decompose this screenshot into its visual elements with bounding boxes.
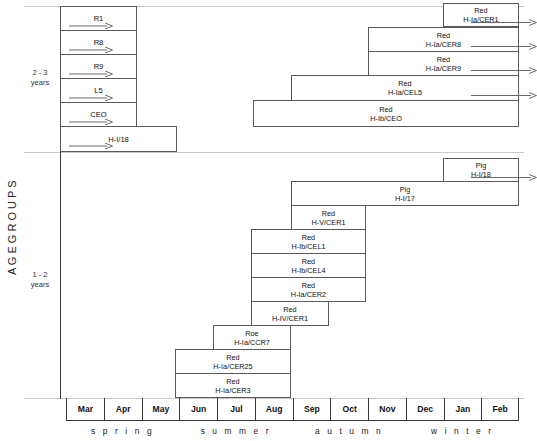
bar-label: PigH-I/18 [471,161,491,179]
timeline-bar-ccr7[interactable]: RoeH-Ia/CCR7 [213,325,291,350]
bar-label-species: R8 [94,38,104,47]
continuation-arrow-icon [69,136,113,143]
bar-label: R8 [94,38,104,47]
timeline-bar-r8[interactable]: R8 [60,30,137,55]
group-label-range: 2 - 3 [32,68,47,77]
month-cell-jun[interactable]: Jun [179,398,217,420]
month-cell-oct[interactable]: Oct [330,398,368,420]
bar-label-code: H-Ib/CEO [370,114,402,123]
group-label-2-3-years: 2 - 3 years [18,68,62,87]
bar-label: RedH-Ib/CEL4 [291,257,325,275]
arrow-right-icon [69,22,113,29]
timeline-bar-ceobar[interactable]: RedH-Ib/CEO [253,100,519,127]
arrow-right-icon [69,94,113,101]
month-cell-jan[interactable]: Jan [444,398,482,420]
continuation-arrow-icon [69,111,113,118]
continuation-arrow-icon [69,63,113,70]
bar-label-code: H-I/18 [471,170,491,179]
bar-label-species: Red [322,209,335,218]
bar-label-species: Roe [245,329,258,338]
timeline-bar-r1[interactable]: R1 [60,6,137,31]
bar-label-species: Red [226,377,239,386]
bar-label-species: Red [226,353,239,362]
timeline-bar-ivcer1[interactable]: RedH-IV/CER1 [251,301,329,326]
timeline-bar-cel4[interactable]: RedH-Ib/CEL4 [251,253,366,278]
bar-label: R1 [94,14,104,23]
group-label-1-2-years: 1 - 2 years [18,270,62,289]
bar-label-species: Pig [400,185,411,194]
bar-label: RedH-IV/CER1 [272,305,308,323]
season-label-autumn: a u t u m n [293,426,406,436]
timeline-bar-l5[interactable]: L5 [60,78,137,103]
arrow-right-icon [69,46,113,53]
timeline-bar-r9[interactable]: R9 [60,54,137,79]
arrow-right-icon [69,143,113,150]
bar-label-code: H-Ib/CEL4 [291,266,325,275]
month-cell-sep[interactable]: Sep [293,398,331,420]
timeline-bar-cer9[interactable]: RedH-Ia/CER9 [368,51,519,76]
bar-label: RedH-Ib/CEO [370,105,402,123]
bar-label-code: H-Ia/CCR7 [234,338,270,347]
bar-label-code: H-Ib/CEL1 [291,242,325,251]
axis-caption-age-groups: A G E G R O U P S [2,88,22,368]
bar-label-code: H-Ia/CER25 [213,362,252,371]
timeline-bar-cer2[interactable]: RedH-Ia/CER2 [251,277,366,302]
bar-label-species: Red [437,55,450,64]
bar-label: RedH-Ia/CER8 [426,31,461,49]
bar-label-species: Red [474,6,487,15]
timeline-bar-h118b[interactable]: PigH-I/18 [443,158,519,182]
bar-label: RedH-Ia/CER25 [213,353,252,371]
month-cell-dec[interactable]: Dec [406,398,444,420]
bar-label-code: H-V/CER1 [311,218,345,227]
bar-label-species: Red [398,79,411,88]
bar-label: R9 [94,62,104,71]
bar-label: L5 [94,86,102,95]
timeline-bar-cer3[interactable]: RedH-Ia/CER3 [175,373,291,398]
bar-label-species: Red [302,257,315,266]
bar-label-code: H-Ia/CEL5 [388,88,422,97]
bar-label-species: R1 [94,14,104,23]
group-label-unit: years [31,78,49,87]
bar-label-code: H-IV/CER1 [272,314,308,323]
bar-label: RedH-Ib/CEL1 [291,233,325,251]
bar-label: RoeH-Ia/CCR7 [234,329,270,347]
bar-label-code: H-I/17 [395,194,415,203]
month-cell-aug[interactable]: Aug [255,398,293,420]
timeline-bar-cel5[interactable]: RedH-Ia/CEL5 [291,75,519,101]
bar-label-code: H-Ia/CER9 [426,64,461,73]
bar-label-species: L5 [94,86,102,95]
month-cell-apr[interactable]: Apr [104,398,142,420]
bar-label-code: H-Ia/CER8 [426,40,461,49]
timeline-bar-h117[interactable]: PigH-I/17 [291,181,519,206]
continuation-arrow-icon [69,15,113,22]
bar-label-species: CEO [90,110,106,119]
arrow-right-icon [69,118,113,125]
month-cell-feb[interactable]: Feb [481,398,519,420]
bar-label-species: Red [302,281,315,290]
timeline-bar-cer25[interactable]: RedH-Ia/CER25 [175,349,291,374]
bar-label-species: Red [283,305,296,314]
continuation-arrow-icon [69,87,113,94]
bar-label: RedH-Ia/CER3 [215,377,250,395]
season-label-winter: w i n t e r [406,426,519,436]
timeline-bar-h118t[interactable]: H-I/18 [60,126,177,152]
month-cell-nov[interactable]: Nov [368,398,406,420]
month-cell-mar[interactable]: Mar [66,398,104,420]
bar-label: RedH-Ia/CER2 [291,281,326,299]
timeline-bar-cer1t[interactable]: RedH-Ia/CER1 [443,3,519,27]
bar-label: PigH-I/17 [395,185,415,203]
group-divider-line [24,152,524,153]
timeline-bar-ceo[interactable]: CEO [60,102,137,127]
bar-label-species: R9 [94,62,104,71]
group-label-range: 1 - 2 [32,270,47,279]
month-cell-jul[interactable]: Jul [217,398,255,420]
timeline-bar-vcer1[interactable]: RedH-V/CER1 [291,205,366,230]
bar-label: H-I/18 [108,135,129,144]
timeline-bar-cer8[interactable]: RedH-Ia/CER8 [368,27,519,52]
timeline-bar-cel1[interactable]: RedH-Ib/CEL1 [251,229,366,254]
season-label-spring: s p r i n g [66,426,179,436]
bar-label-species: Red [302,233,315,242]
bar-label-code: H-Ia/CER2 [291,290,326,299]
bar-label: RedH-Ia/CER1 [463,6,498,24]
month-cell-may[interactable]: May [142,398,180,420]
